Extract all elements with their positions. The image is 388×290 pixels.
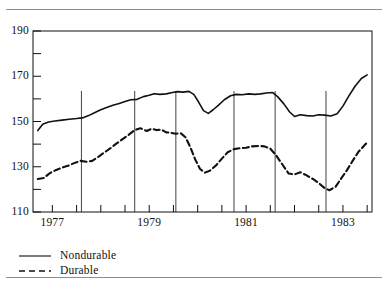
- data-series-group: [38, 75, 367, 190]
- x-tick-label-1979: 1979: [133, 216, 165, 228]
- chart-legend: Nondurable Durable: [18, 248, 258, 278]
- legend-line-solid-icon: [18, 251, 52, 261]
- y-tick-label-130: 130: [0, 160, 29, 172]
- chart-figure: 110130150170190 1977197919811983 Nondura…: [0, 0, 388, 290]
- line-chart-svg: [0, 18, 388, 223]
- x-tick-label-1981: 1981: [230, 216, 262, 228]
- y-tick-label-110: 110: [0, 205, 29, 217]
- recession-marker-lines: [81, 91, 326, 212]
- legend-line-dashed-icon: [18, 266, 52, 276]
- legend-label-durable: Durable: [60, 264, 98, 277]
- y-tick-label-190: 190: [0, 24, 29, 36]
- plot-area: [0, 18, 388, 223]
- y-tick-label-150: 150: [0, 115, 29, 127]
- x-tick-label-1983: 1983: [327, 216, 359, 228]
- y-tick-label-170: 170: [0, 69, 29, 81]
- legend-label-nondurable: Nondurable: [60, 249, 116, 262]
- bottom-divider-rule: [6, 277, 382, 278]
- top-divider-rule: [6, 9, 382, 10]
- x-tick-label-1977: 1977: [36, 216, 68, 228]
- legend-item-nondurable: Nondurable: [18, 248, 258, 263]
- legend-item-durable: Durable: [18, 263, 258, 278]
